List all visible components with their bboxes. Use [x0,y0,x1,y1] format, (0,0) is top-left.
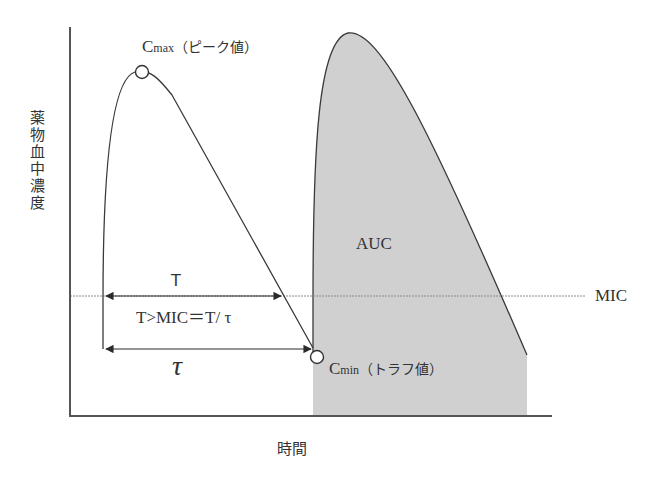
cmin-marker-icon [311,351,324,364]
auc-label: AUC [356,234,392,254]
y-axis-label: 薬物血中濃度 [27,110,47,212]
t-mic-formula: T>MIC＝T/ τ [136,303,231,328]
cmax-marker-icon [136,66,149,79]
x-axis-label: 時間 [277,437,307,458]
cmax-label: Cmax（ピーク値） [142,36,258,57]
cmin-main: C [329,359,340,378]
mic-label: MIC [595,286,627,306]
pk-diagram [0,0,660,483]
t-label: T [171,271,181,290]
cmax-paren: （ピーク値） [174,39,258,55]
cmax-main: C [142,37,153,56]
cmin-sub: min [340,363,359,377]
cmin-paren: （トラフ値） [359,361,443,377]
cmax-sub: max [153,41,174,55]
cmin-label: Cmin（トラフ値） [329,358,443,379]
tau-label: τ [172,350,182,382]
